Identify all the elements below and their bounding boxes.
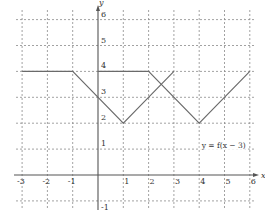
curve-label: y = f(x − 3) [201, 141, 246, 150]
y-tick-label: 5 [101, 36, 106, 45]
y-tick-label: 2 [101, 113, 106, 122]
annotations: y = f(x − 3) [200, 141, 246, 150]
x-tick-label: -1 [68, 177, 76, 186]
x-tick-label: 3 [175, 177, 180, 186]
y-tick-label: 3 [101, 87, 106, 96]
x-tick-label: 5 [226, 177, 231, 186]
y-tick-label: 1 [101, 139, 106, 148]
x-tick-label: 4 [200, 177, 205, 186]
x-tick-label: 6 [251, 177, 256, 186]
y-tick-label: 6 [101, 10, 106, 19]
y-tick-label: -1 [101, 203, 109, 211]
x-tick-label: -3 [17, 177, 25, 186]
y-tick-label: 4 [101, 61, 106, 70]
y-axis-label: y [98, 0, 104, 7]
x-tick-label: 1 [124, 177, 129, 186]
function-graph: x y -3-2-1123456-1123456 y = f(x − 3) [0, 0, 265, 211]
x-axis-label: x [261, 171, 265, 180]
grid-lines [16, 10, 256, 208]
x-tick-label: 2 [150, 177, 155, 186]
x-tick-label: -2 [42, 177, 50, 186]
